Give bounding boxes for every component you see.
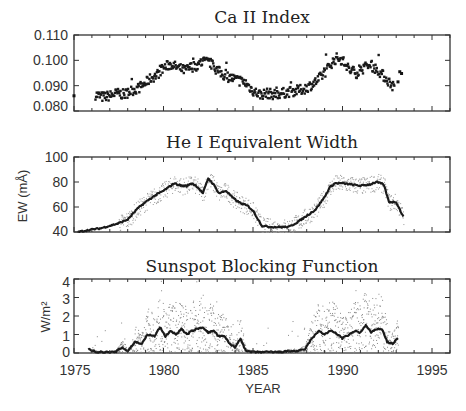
xtick-label: 1980 xyxy=(148,362,179,378)
panel-1-ca-ii-index: 0.110 0.100 0.090 0.080 xyxy=(33,27,450,114)
panel-3-ytick: 1 xyxy=(62,328,70,344)
panel-1-data-points xyxy=(73,52,404,102)
panel-3-ylabel: W/m² xyxy=(38,301,53,333)
panel-2-ytick: 60 xyxy=(52,199,68,215)
panel-3-ytick: 0 xyxy=(62,344,70,360)
x-axis-label: YEAR xyxy=(245,381,280,396)
xtick-label: 1975 xyxy=(59,362,90,378)
panel-2-ytick: 80 xyxy=(52,174,68,190)
panel-1-ytick: 0.090 xyxy=(33,78,68,94)
xtick-label: 1990 xyxy=(327,362,358,378)
xtick-label: 1995 xyxy=(416,362,447,378)
panel-1-ytick: 0.080 xyxy=(33,98,68,114)
panel-2-ylabel: EW (mÅ) xyxy=(15,170,30,223)
panel-3-ytick: 2 xyxy=(62,309,70,325)
panel-2-frame xyxy=(74,157,450,232)
panel-1-ytick: 0.100 xyxy=(33,52,68,68)
panel-1-title: Ca II Index xyxy=(214,7,310,27)
panel-1-ytick: 0.110 xyxy=(34,27,68,43)
panel-3-ytick: 3 xyxy=(62,291,70,307)
panel-2-he-i-equivalent-width: 100 80 60 40 EW (mÅ) xyxy=(15,149,450,239)
panel-2-ytick: 40 xyxy=(52,223,68,239)
xtick-label: 1985 xyxy=(237,362,268,378)
panel-2-ticks xyxy=(74,157,450,232)
panel-3-ytick: 4 xyxy=(62,274,70,290)
panel-3-smoothed-line xyxy=(88,325,398,353)
panel-3-title: Sunspot Blocking Function xyxy=(146,256,379,276)
panel-2-ytick: 100 xyxy=(45,149,69,165)
solar-activity-figure: Ca II Index He I Equivalent Width Sunspo… xyxy=(0,0,466,411)
panel-2-title: He I Equivalent Width xyxy=(166,132,358,152)
panel-3-sunspot-blocking: 4 3 2 1 0 W/m² 1975 1980 1985 1990 1995 … xyxy=(38,274,450,396)
